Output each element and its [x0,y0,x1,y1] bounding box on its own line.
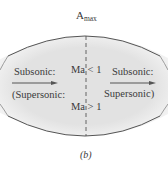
a-max-label: Amax [76,10,97,23]
a-max-base: A [76,9,84,21]
right-supersonic-label: Supersonic) [104,89,154,100]
figure-caption: (b) [80,150,92,160]
left-supersonic-label: (Supersonic: [12,90,65,101]
flow-region [0,36,168,136]
right-subsonic-label: Subsonic: [112,67,153,78]
a-max-subscript: max [84,14,97,23]
ma-less-than-one-label: Ma < 1 [71,65,101,76]
left-subsonic-label: Subsonic: [14,67,55,78]
nozzle-diffuser-diagram: Amax Ma < 1 Ma > 1 Subsonic: (Supersonic… [0,0,168,174]
ma-greater-than-one-label: Ma > 1 [71,102,101,113]
converging-diverging-shape [0,0,168,174]
